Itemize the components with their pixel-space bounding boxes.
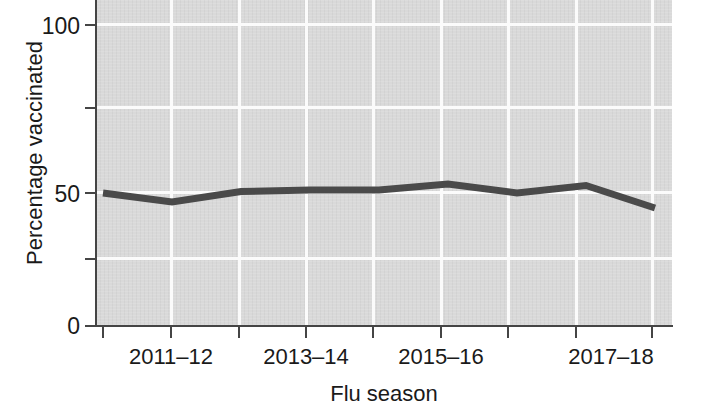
gridline-x-4	[372, 0, 375, 325]
y-tick-100	[85, 24, 96, 26]
x-tick-label-2017-18: 2017–18	[541, 344, 681, 370]
gridline-x-1	[170, 0, 173, 325]
x-tick-8	[651, 327, 653, 338]
gridline-x-6	[507, 0, 510, 325]
x-tick-label-2013-14: 2013–14	[236, 344, 376, 370]
x-tick-1	[170, 327, 172, 338]
plot-texture	[96, 0, 672, 325]
y-axis-title: Percentage vaccinated	[22, 0, 48, 313]
gridline-x-7	[575, 0, 578, 325]
x-tick-label-2015-16: 2015–16	[371, 344, 511, 370]
gridline-y-75	[96, 106, 672, 109]
chart-figure: 100 50 0 2011–12 2013–14 2015–16 2017–18…	[0, 0, 702, 417]
y-axis-line	[95, 0, 97, 327]
gridline-y-50	[96, 191, 672, 194]
y-tick-50	[85, 192, 96, 194]
x-tick-label-2011-12: 2011–12	[101, 344, 241, 370]
y-tick-0	[85, 325, 96, 327]
x-tick-2	[238, 327, 240, 338]
y-tick-label-0: 0	[0, 313, 80, 340]
gridline-x-8	[651, 0, 654, 325]
gridline-y-100	[96, 23, 672, 26]
plot-area	[96, 0, 672, 325]
x-tick-0	[102, 327, 104, 338]
gridline-y-25	[96, 257, 672, 260]
y-tick-25	[85, 258, 96, 260]
x-tick-6	[507, 327, 509, 338]
y-tick-75	[85, 107, 96, 109]
gridline-x-3	[305, 0, 308, 325]
gridline-x-5	[440, 0, 443, 325]
gridline-x-2	[238, 0, 241, 325]
x-axis-line	[95, 325, 673, 327]
x-tick-3	[305, 327, 307, 338]
x-axis-title: Flu season	[96, 381, 672, 407]
x-tick-5	[440, 327, 442, 338]
x-tick-4	[372, 327, 374, 338]
x-tick-7	[575, 327, 577, 338]
